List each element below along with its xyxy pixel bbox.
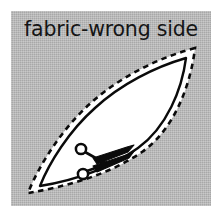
fabric-panel: fabric-wrong side	[11, 11, 211, 206]
pattern-illustration	[11, 11, 211, 206]
pattern-svg	[11, 11, 211, 206]
scissors-handle-lower	[78, 169, 88, 179]
scissors-handle-upper	[76, 144, 86, 154]
figure-root: fabric-wrong side	[0, 0, 223, 220]
